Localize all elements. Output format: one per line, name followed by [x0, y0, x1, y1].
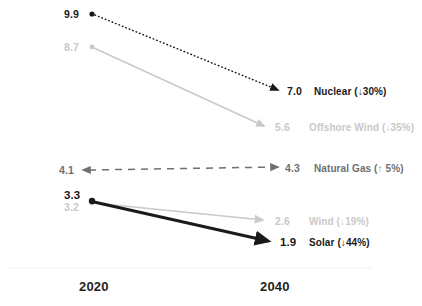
series-label-natural-gas: Natural Gas (↑ 5%) — [314, 163, 404, 174]
series-line-solar — [89, 198, 268, 241]
start-value-offshore-wind: 8.7 — [64, 41, 79, 53]
series-line-wind — [90, 201, 263, 220]
start-value-natural-gas: 4.1 — [59, 164, 74, 176]
start-value-nuclear: 9.9 — [64, 8, 79, 20]
series-label-nuclear: Nuclear (↓30%) — [314, 86, 387, 97]
series-label-offshore-wind: Offshore Wind (↓35%) — [309, 122, 414, 133]
end-value-nuclear: 7.0 — [287, 85, 302, 97]
start-value-wind: 3.2 — [64, 201, 79, 213]
end-value-solar: 1.9 — [280, 236, 296, 248]
series-line-offshore-wind — [90, 45, 264, 126]
end-value-natural-gas: 4.3 — [285, 162, 300, 174]
series-line-nuclear — [89, 11, 278, 90]
series-label-wind: Wind (↓19%) — [309, 216, 369, 227]
series-line-natural-gas — [89, 167, 278, 170]
x-tick-2020: 2020 — [79, 279, 109, 294]
end-value-wind: 2.6 — [275, 215, 290, 227]
start-value-solar: 3.3 — [64, 189, 80, 201]
slope-chart: 9.9 8.7 4.1 3.3 3.2 7.0 5.6 4.3 2.6 1.9 … — [0, 0, 422, 306]
end-value-offshore-wind: 5.6 — [275, 121, 290, 133]
x-tick-2040: 2040 — [260, 279, 290, 294]
series-label-solar: Solar (↓44%) — [309, 237, 370, 248]
